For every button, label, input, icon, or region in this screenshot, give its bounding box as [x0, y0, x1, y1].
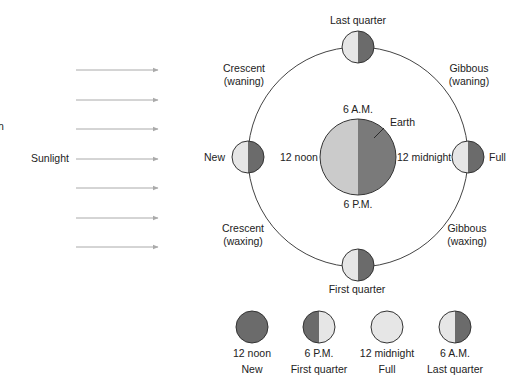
label-line: (waning) [223, 75, 265, 88]
appearance-full [371, 311, 403, 343]
edge-text-fragment: n [0, 120, 4, 133]
orbit-moon-new [232, 141, 264, 173]
label-gibbous-waxing: Gibbous (waxing) [447, 222, 487, 248]
orbit-moon-full [452, 141, 484, 173]
earth-time-12midnight: 12 midnight [397, 151, 451, 164]
orbit-moon-first-quarter [342, 249, 374, 281]
appearance-new [236, 311, 268, 343]
sunlight-arrows [76, 70, 158, 247]
label-full: Full [489, 151, 506, 164]
label-new: New [204, 151, 225, 164]
appearance-time: 12 noon [233, 347, 271, 360]
earth-time-6pm: 6 P.M. [344, 198, 373, 211]
label-line: Crescent [222, 222, 264, 235]
label-last-quarter: Last quarter [330, 14, 386, 27]
label-line: Gibbous [447, 222, 487, 235]
label-crescent-waxing: Crescent (waxing) [222, 222, 264, 248]
appearance-phase: First quarter [291, 363, 348, 376]
label-gibbous-waning: Gibbous (waning) [449, 62, 489, 88]
label-line: (waxing) [222, 235, 264, 248]
label-first-quarter: First quarter [329, 283, 386, 296]
orbit-moon-last-quarter [342, 31, 374, 63]
moon-phase-diagram [0, 0, 523, 388]
label-line: (waxing) [447, 235, 487, 248]
label-line: Gibbous [449, 62, 489, 75]
appearance-first-quarter [303, 311, 335, 343]
earth-time-6am: 6 A.M. [343, 103, 373, 116]
appearance-phase: Full [379, 363, 396, 376]
appearance-time: 6 P.M. [305, 347, 334, 360]
appearance-last-quarter [439, 311, 471, 343]
appearance-phase: New [241, 363, 262, 376]
earth-label: Earth [390, 116, 415, 129]
appearance-time: 6 A.M. [440, 347, 470, 360]
label-crescent-waning: Crescent (waning) [223, 62, 265, 88]
label-line: Crescent [223, 62, 265, 75]
earth-globe [320, 119, 396, 195]
sunlight-label: Sunlight [31, 152, 69, 165]
appearance-time: 12 midnight [360, 347, 414, 360]
earth-time-12noon: 12 noon [280, 151, 318, 164]
appearance-phase: Last quarter [427, 363, 483, 376]
label-line: (waning) [449, 75, 489, 88]
